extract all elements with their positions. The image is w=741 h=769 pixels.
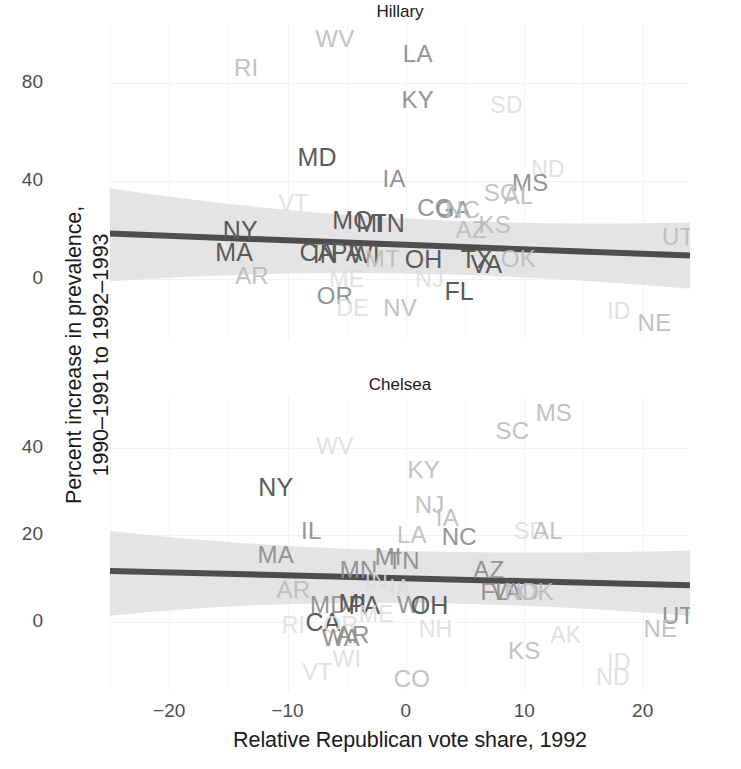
x-axis-label: Relative Republican vote share, 1992 [110,728,710,753]
data-point-label: AL [533,517,563,545]
data-point-label: AZ [455,216,486,244]
data-point-label: RI [282,611,305,638]
data-point-label: WV [316,433,353,460]
data-point-label: KY [402,86,434,114]
x-tick-label: 10 [494,700,554,722]
data-point-label: IL [301,517,321,545]
y-tick-label: 0 [0,610,43,632]
data-point-label: DE [336,295,368,322]
data-point-label: AR [277,576,311,604]
data-point-label: SC [496,417,530,445]
data-point-label: OK [519,578,554,606]
data-point-label: AL [503,182,533,210]
x-tick-label: 0 [376,700,436,722]
data-point-label: VA [470,250,502,279]
y-axis-label: Percent increase in prevalence, 1990–199… [61,55,115,655]
data-point-label: LA [403,40,433,68]
data-point-label: NJ [415,265,444,292]
data-point-label: IA [383,165,406,193]
data-point-label: AR [235,262,269,290]
data-point-label: UT [662,223,690,251]
data-point-label: TN [371,208,405,237]
data-point-label: CO [394,665,430,692]
scatter-panel-chelsea: MSSCWVKYNYNJIAILSDALLANCMAMITNMNAZINIAAR… [110,396,690,692]
data-point-label: ID [607,297,630,324]
x-tick-label: −10 [258,700,318,722]
data-point-label: NV [383,294,417,322]
data-point-label: NE [644,615,678,643]
data-point-label: NE [638,309,672,337]
data-point-label: KS [508,637,540,665]
data-point-label: NY [258,473,293,502]
data-point-label: ND [596,663,630,690]
data-point-label: TN [387,547,419,575]
x-tick-label: 20 [613,700,673,722]
panel-title-hillary: Hillary [110,2,690,22]
data-point-label: RI [234,54,258,82]
scatter-panel-hillary: WVLARIKYSDMDNDIAMSSCALVTCOGANCMOMITNKSAZ… [110,22,690,340]
data-point-label: KY [407,456,439,484]
data-point-label: MT [365,245,400,273]
y-tick-label: 40 [0,169,43,191]
data-point-label: MD [298,142,337,171]
data-point-label: VT [302,659,332,686]
data-point-label: AK [550,622,581,649]
data-point-label: NC [442,523,477,551]
data-point-label: OK [501,245,536,273]
y-tick-label: 80 [0,71,43,93]
y-axis-label-line1: Percent increase in prevalence, [61,55,88,655]
data-point-label: WI [332,646,361,673]
data-point-label: SD [490,92,522,119]
y-tick-label: 0 [0,267,43,289]
y-tick-label: 20 [0,523,43,545]
data-point-label: MA [258,541,294,569]
chart-figure: Percent increase in prevalence, 1990–199… [0,0,741,769]
data-point-label: WV [315,25,354,53]
y-tick-label: 40 [0,436,43,458]
panel-title-chelsea: Chelsea [110,375,690,395]
data-point-label: MS [536,399,572,427]
data-point-label: VT [279,190,309,217]
data-point-label: FL [444,277,474,306]
x-tick-label: −20 [139,700,199,722]
data-point-label: NH [419,615,453,642]
